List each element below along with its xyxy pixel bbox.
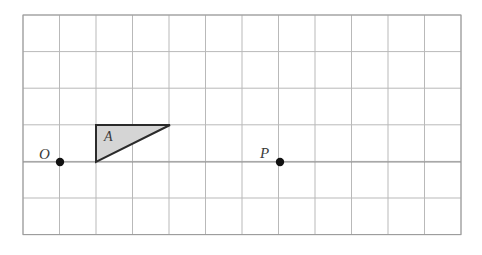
grid-diagram-svg xyxy=(0,0,482,255)
point-label-o: O xyxy=(39,147,50,162)
plotted-point-o[interactable] xyxy=(56,158,64,166)
shape-label-a: A xyxy=(104,130,113,144)
diagram-canvas: O P A xyxy=(0,0,482,255)
point-label-p: P xyxy=(260,146,269,161)
plotted-point-p[interactable] xyxy=(276,158,284,166)
